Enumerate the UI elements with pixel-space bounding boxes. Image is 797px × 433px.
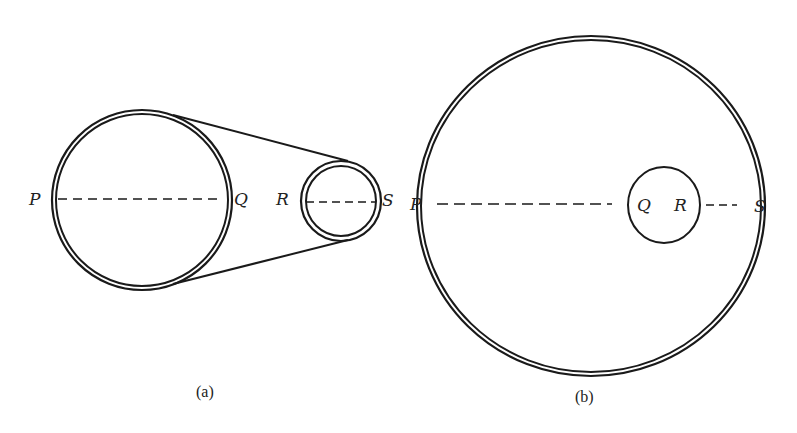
belt-bottom [173,240,348,284]
small-pulley-inner [306,166,376,236]
label-b-q: Q [637,195,651,215]
label-b-r: R [673,195,687,215]
label-a-s: S [382,190,394,210]
large-pulley-outer [52,110,232,290]
label-a-r: R [275,189,289,209]
outer-ring-outer [417,36,765,376]
label-a-q: Q [234,189,248,209]
label-a-p: P [28,189,41,209]
label-b-s: S [754,196,766,216]
figure-a [52,110,381,290]
label-b-p: P [409,194,422,214]
figure-b [417,36,765,376]
outer-ring-inner [421,40,761,372]
caption-b: (b) [575,388,594,406]
caption-a: (a) [196,383,214,401]
belt-top [173,115,348,161]
diagram-canvas: P Q R S (a) P Q R S (b) [0,0,797,433]
large-pulley-inner [56,114,228,286]
small-pulley-outer [301,161,381,241]
